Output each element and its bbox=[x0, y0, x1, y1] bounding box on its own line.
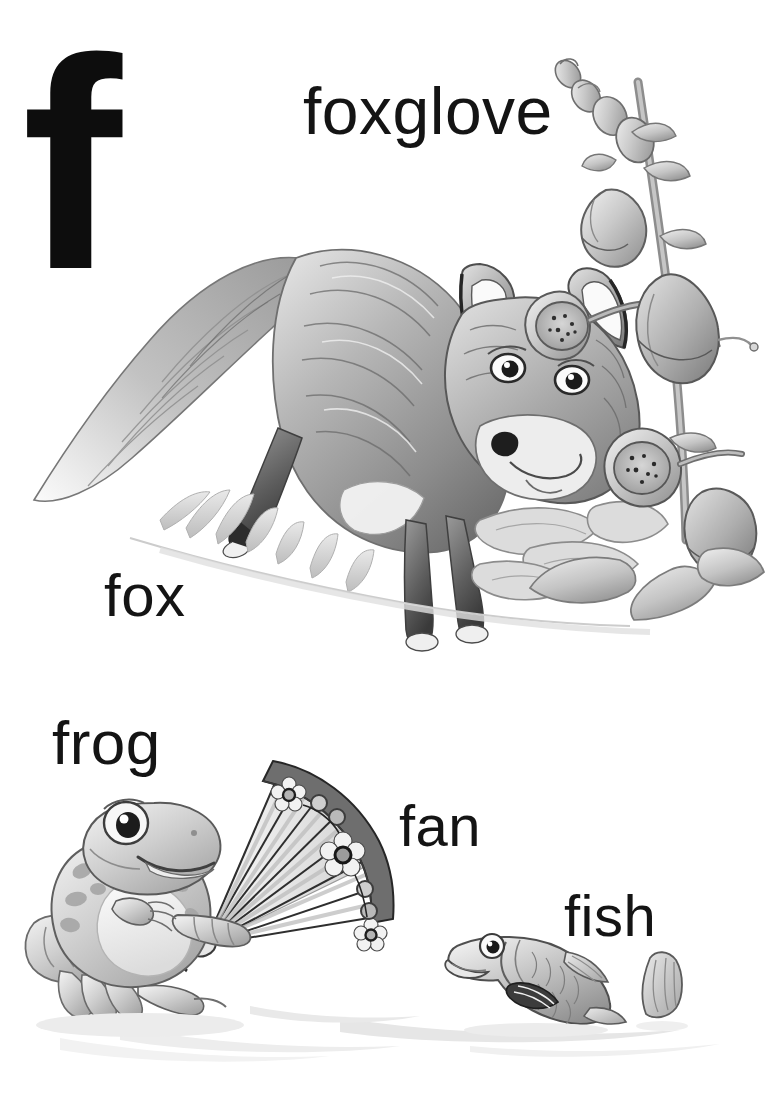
label-fan: fan bbox=[399, 797, 481, 855]
label-fish: fish bbox=[564, 887, 656, 945]
fish-eye bbox=[480, 934, 504, 958]
fish-tail-fin bbox=[643, 952, 682, 1017]
frog-front-foot bbox=[138, 985, 226, 1015]
frog-illustration bbox=[20, 775, 270, 1040]
foxglove-bell-3 bbox=[636, 274, 758, 383]
foxglove-bell-1 bbox=[581, 189, 646, 266]
label-fox: fox bbox=[104, 566, 186, 626]
label-foxglove: foxglove bbox=[303, 78, 553, 144]
label-frog: frog bbox=[52, 712, 161, 774]
book-page: f bbox=[0, 0, 765, 1117]
large-letter-f: f bbox=[22, 14, 118, 314]
foxglove-illustration bbox=[520, 40, 765, 620]
frog-head bbox=[83, 800, 220, 895]
foxglove-basal-leaves bbox=[530, 548, 764, 620]
